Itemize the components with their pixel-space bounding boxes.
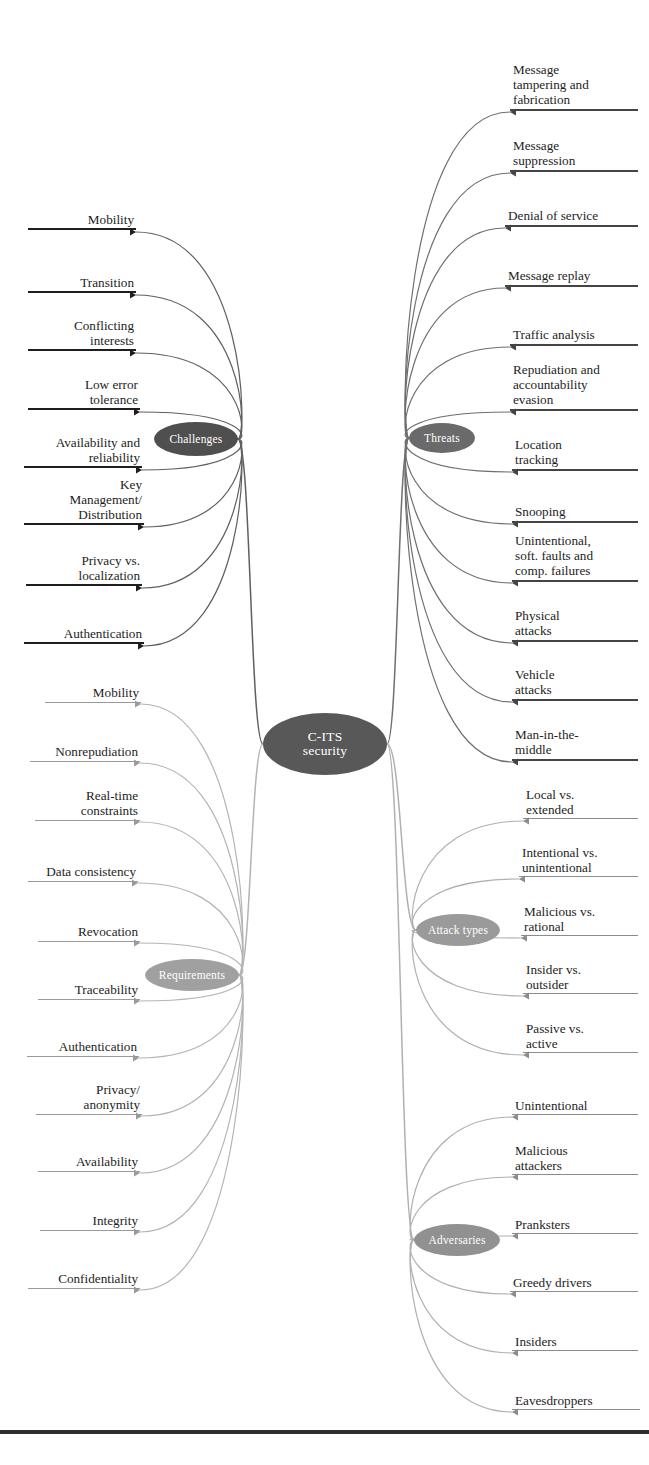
leaf-attack-types-4[interactable]: Passive vs.active [523, 1021, 638, 1054]
leaf-underline [38, 999, 140, 1000]
leaf-requirements-2[interactable]: Real-timeconstraints [35, 788, 140, 821]
leaf-challenges-3[interactable]: Low errortolerance [28, 377, 140, 411]
leaf-requirements-10[interactable]: Confidentiality [28, 1271, 140, 1288]
leaf-underline [24, 642, 144, 644]
leaf-requirements-9[interactable]: Integrity [40, 1213, 140, 1230]
connector-line [140, 975, 243, 1173]
leaf-requirements-3[interactable]: Data consistency [28, 864, 138, 881]
leaf-threats-3[interactable]: Message replay [505, 268, 638, 286]
connector-line [405, 438, 512, 702]
leaf-challenges-1[interactable]: Transition [28, 275, 136, 293]
leaf-threats-11[interactable]: Man-in-the-middle [512, 727, 638, 761]
leaf-attack-types-2[interactable]: Malicious vs.rational [521, 904, 638, 937]
leaf-underline [36, 1114, 142, 1115]
branch-node-label: Adversaries [428, 1234, 485, 1246]
leaf-threats-8[interactable]: Unintentional,soft. faults andcomp. fail… [512, 533, 638, 582]
leaf-challenges-7[interactable]: Authentication [24, 626, 144, 644]
connector-line [238, 439, 263, 744]
leaf-underline [510, 170, 638, 172]
leaf-threats-4[interactable]: Traffic analysis [510, 327, 638, 345]
leaf-attack-types-1[interactable]: Intentional vs.unintentional [519, 845, 638, 878]
connector-line [140, 822, 243, 975]
connector-line [140, 975, 243, 1290]
leaf-label: Intentional vs.unintentional [519, 845, 638, 877]
leaf-label: Traffic analysis [510, 327, 638, 343]
connector-line [405, 438, 512, 762]
leaf-underline [523, 818, 638, 819]
center-node-label: C-ITSsecurity [303, 730, 347, 758]
leaf-requirements-5[interactable]: Traceability [38, 982, 140, 999]
leaf-threats-1[interactable]: Messagesuppression [510, 138, 638, 172]
branch-node-adversaries[interactable]: Adversaries [414, 1224, 500, 1256]
leaf-challenges-0[interactable]: Mobility [28, 212, 136, 230]
leaf-adversaries-2[interactable]: Pranksters [512, 1217, 638, 1234]
connector-line [142, 439, 242, 588]
leaf-threats-10[interactable]: Vehicleattacks [512, 667, 638, 701]
leaf-underline [512, 521, 638, 523]
leaf-challenges-6[interactable]: Privacy vs.localization [26, 553, 142, 587]
leaf-adversaries-0[interactable]: Unintentional [512, 1098, 638, 1115]
leaf-label: Mobility [45, 685, 141, 701]
connector-line [405, 112, 510, 438]
leaf-label: Traceability [38, 982, 140, 998]
leaf-underline [512, 1350, 638, 1351]
leaf-underline [523, 993, 638, 994]
leaf-requirements-6[interactable]: Authentication [27, 1039, 139, 1056]
leaf-attack-types-0[interactable]: Local vs.extended [523, 787, 638, 820]
leaf-challenges-5[interactable]: KeyManagement/Distribution [24, 477, 144, 526]
branch-node-requirements[interactable]: Requirements [145, 959, 239, 991]
leaf-underline [28, 228, 136, 230]
leaf-label: Availability andreliability [24, 435, 142, 467]
connector-line [410, 1117, 512, 1240]
center-node[interactable]: C-ITSsecurity [263, 713, 387, 775]
leaf-underline [512, 1409, 640, 1410]
leaf-label: Denial of service [505, 208, 638, 224]
leaf-underline [512, 580, 638, 582]
leaf-attack-types-3[interactable]: Insider vs.outsider [523, 962, 638, 995]
leaf-adversaries-4[interactable]: Insiders [512, 1334, 638, 1351]
leaf-threats-2[interactable]: Denial of service [505, 208, 638, 226]
leaf-underline [26, 584, 142, 586]
leaf-label: Mobility [28, 212, 136, 228]
leaf-adversaries-5[interactable]: Eavesdroppers [512, 1393, 640, 1410]
leaf-requirements-8[interactable]: Availability [38, 1154, 140, 1171]
leaf-label: Maliciousattackers [512, 1143, 638, 1175]
leaf-adversaries-3[interactable]: Greedy drivers [510, 1275, 638, 1292]
mindmap-canvas: C-ITSsecurityChallengesRequirementsThrea… [0, 0, 649, 1465]
leaf-threats-0[interactable]: Messagetampering andfabrication [510, 62, 638, 111]
leaf-requirements-4[interactable]: Revocation [38, 924, 140, 941]
connector-line [387, 438, 409, 744]
connector-line [387, 744, 414, 1240]
leaf-label: Availability [38, 1154, 140, 1170]
leaf-requirements-0[interactable]: Mobility [45, 685, 141, 702]
leaf-label: Insiders [512, 1334, 638, 1350]
leaf-threats-7[interactable]: Snooping [512, 504, 638, 522]
leaf-requirements-7[interactable]: Privacy/anonymity [36, 1082, 142, 1115]
branch-node-challenges[interactable]: Challenges [154, 422, 238, 456]
leaf-threats-5[interactable]: Repudiation andaccountabilityevasion [510, 362, 638, 411]
leaf-underline [35, 820, 140, 821]
leaf-threats-6[interactable]: Locationtracking [512, 437, 638, 471]
leaf-underline [510, 409, 638, 411]
leaf-underline [512, 1114, 638, 1115]
connector-line [410, 1240, 512, 1353]
leaf-label: Messagetampering andfabrication [510, 62, 638, 109]
leaf-adversaries-1[interactable]: Maliciousattackers [512, 1143, 638, 1176]
branch-node-label: Attack types [428, 924, 488, 936]
connector-line [136, 295, 242, 439]
leaf-label: Real-timeconstraints [35, 788, 140, 820]
leaf-label: Transition [28, 275, 136, 291]
leaf-threats-9[interactable]: Physicalattacks [512, 608, 638, 642]
leaf-challenges-2[interactable]: Conflictinginterests [28, 318, 136, 352]
leaf-requirements-1[interactable]: Nonrepudiation [30, 744, 140, 761]
branch-node-threats[interactable]: Threats [409, 423, 475, 453]
leaf-label: Insider vs.outsider [523, 962, 638, 994]
leaf-underline [523, 1052, 638, 1053]
connector-line [144, 439, 242, 646]
leaf-label: Revocation [38, 924, 140, 940]
leaf-label: Nonrepudiation [30, 744, 140, 760]
branch-node-attack-types[interactable]: Attack types [416, 914, 500, 946]
leaf-challenges-4[interactable]: Availability andreliability [24, 435, 142, 469]
leaf-label: Integrity [40, 1213, 140, 1229]
leaf-label: Message replay [505, 268, 638, 284]
